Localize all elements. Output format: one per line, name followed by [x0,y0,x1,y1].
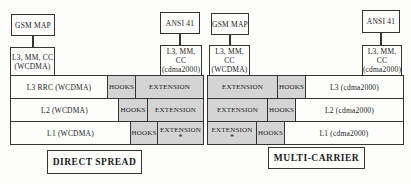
mc-l3-mm-cc-wcdma-line1: L3, MM, CC [210,47,249,65]
multi-carrier-caption: MULTI-CARRIER [268,147,365,169]
mc-l2-cdma2000-box: L2 (cdma2000) [295,98,404,122]
ds-l1-extension-box: EXTENSION * [157,121,204,145]
ds-l2-extension-box: EXTENSION [147,98,204,122]
ds-l1-hooks-box: HOOKS [130,121,158,145]
ds-l3-mm-cc-cdma2000-line1: L3, MM, CC [161,47,201,65]
ds-l3-hooks-box: HOOKS [107,75,136,99]
ds-l3-mm-cc-wcdma-line2: (WCDMA) [15,62,51,71]
ds-l3-mm-cc-cdma2000-line2: (cdma2000) [162,65,200,74]
mc-l3-mm-cc-wcdma-line2: (WCDMA) [212,65,248,74]
mc-l1-extension-footnote-asterisk: * [230,136,234,140]
mc-l1-hooks-box: HOOKS [256,121,285,145]
mc-l1-extension-box: EXTENSION * [207,121,257,145]
ds-l3-rrc-wcdma-box: L3 RRC (WCDMA) [10,75,108,99]
mc-gsm-map-box: GSM MAP [211,13,249,35]
mc-ansi-41-box: ANSI 41 [362,10,400,33]
mc-l3-mm-cc-cdma2000-line1: L3, MM, CC [363,47,401,65]
mc-ansi-41-connector-line [380,32,382,46]
ds-l3-mm-cc-wcdma-box: L3, MM, CC (WCDMA) [10,47,55,76]
mc-l1-cdma2000-box: L1 (cdma2000) [284,121,404,145]
ds-l3-mm-cc-wcdma-line1: L3, MM, CC [12,53,53,62]
ds-ansi-41-box: ANSI 41 [160,12,200,34]
mc-l3-hooks-box: HOOKS [277,75,306,99]
ds-l3-mm-cc-cdma2000-box: L3, MM, CC (cdma2000) [160,45,202,76]
mc-l3-mm-cc-cdma2000-box: L3, MM, CC (cdma2000) [362,45,402,76]
ds-l1-wcdma-box: L1 (WCDMA) [10,121,131,145]
ds-l2-hooks-box: HOOKS [118,98,148,122]
ds-l3-extension-box: EXTENSION [135,75,204,99]
protocol-stack-figure: GSM MAP L3, MM, CC (WCDMA) ANSI 41 L3, M… [0,0,411,184]
mc-l2-extension-box: EXTENSION [207,98,268,122]
ds-gsm-map-box: GSM MAP [11,14,55,36]
mc-l3-mm-cc-cdma2000-line2: (cdma2000) [363,65,401,74]
mc-l2-hooks-box: HOOKS [267,98,296,122]
direct-spread-caption: DIRECT SPREAD [47,150,142,174]
mc-l3-mm-cc-wcdma-box: L3, MM, CC (WCDMA) [209,45,250,76]
mc-l3-cdma2000-box: L3 (cdma2000) [305,75,404,99]
ds-l1-extension-footnote-asterisk: * [178,136,182,140]
mc-l3-extension-box: EXTENSION [207,75,278,99]
ds-l2-wcdma-box: L2 (WCDMA) [10,98,119,122]
